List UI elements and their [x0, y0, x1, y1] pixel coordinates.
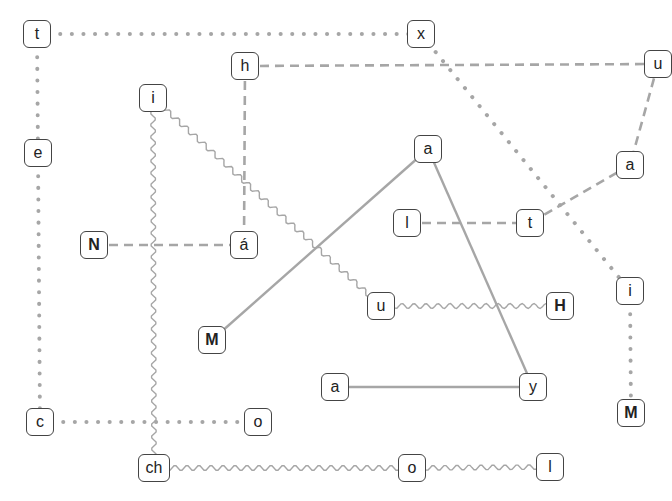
- edge-i2-M2: [630, 291, 631, 413]
- edge-h-aacute: [244, 66, 245, 245]
- node-t1: t: [23, 20, 51, 48]
- edge-x-i2: [421, 34, 630, 291]
- node-l1: l: [393, 209, 421, 237]
- edge-i1-u2: [153, 98, 383, 305]
- node-o1: o: [244, 408, 272, 436]
- edge-u2-H: [381, 304, 560, 309]
- node-i1: i: [139, 84, 167, 112]
- node-M1: M: [198, 326, 226, 354]
- node-M2: M: [617, 399, 645, 427]
- node-x: x: [407, 20, 435, 48]
- edge-a2-t2: [530, 165, 630, 223]
- node-u1: u: [644, 50, 672, 78]
- edge-o2-l2: [412, 465, 550, 470]
- node-i2: i: [616, 277, 644, 305]
- node-aacute: á: [230, 231, 258, 259]
- node-c: c: [26, 408, 54, 436]
- edge-a1-y: [428, 149, 533, 387]
- edge-ch-o2: [154, 466, 412, 470]
- node-N: N: [80, 231, 108, 259]
- node-H: H: [546, 292, 574, 320]
- node-y: y: [519, 373, 547, 401]
- node-ch: ch: [138, 454, 170, 482]
- edge-i1-ch: [151, 98, 156, 468]
- node-e: e: [24, 139, 52, 167]
- node-a2: a: [616, 151, 644, 179]
- node-a3: a: [321, 373, 349, 401]
- node-h: h: [231, 52, 259, 80]
- node-u2: u: [367, 292, 395, 320]
- node-l2: l: [536, 453, 564, 481]
- edge-u1-a2: [630, 64, 658, 165]
- edge-e-c: [38, 153, 40, 422]
- node-o2: o: [398, 454, 426, 482]
- node-a1: a: [414, 135, 442, 163]
- node-t2: t: [516, 209, 544, 237]
- edge-h-u1: [245, 64, 658, 66]
- edge-t1-e: [37, 34, 38, 153]
